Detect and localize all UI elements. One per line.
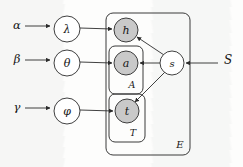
node-t-label: t (125, 105, 130, 118)
plate-E-label: E (175, 139, 184, 150)
node-h-label: h (122, 24, 129, 37)
hyperparameter-S-label: S (224, 53, 232, 67)
figure-canvas: E A T λ θ (0, 0, 243, 167)
node-s: s (160, 51, 184, 75)
plate-A-label: A (128, 79, 136, 90)
node-phi: φ (54, 98, 80, 124)
hyperparameter-beta-label: β (13, 52, 21, 66)
edge-s-to-t (135, 72, 165, 102)
node-s-label: s (169, 58, 174, 69)
edge-theta-to-a (80, 62, 112, 63)
node-a-label: a (123, 57, 130, 70)
node-phi-label: φ (63, 105, 71, 118)
hyperparameter-alpha-label: α (13, 18, 21, 32)
node-a: a (114, 51, 138, 75)
edge-phi-to-t (80, 110, 113, 111)
hyperparameter-gamma-label: γ (14, 100, 21, 114)
plate-T-label: T (130, 127, 137, 138)
node-lambda-label: λ (63, 23, 71, 36)
plate-diagram: E A T λ θ (0, 0, 243, 167)
node-theta-label: θ (64, 57, 71, 70)
node-h: h (114, 18, 138, 42)
node-lambda: λ (54, 16, 80, 42)
node-theta: θ (54, 50, 80, 76)
edge-s-to-h (137, 37, 164, 55)
node-t: t (115, 99, 139, 123)
edge-lambda-to-h (80, 28, 112, 29)
